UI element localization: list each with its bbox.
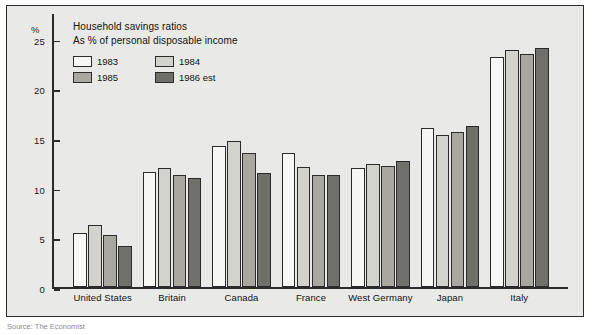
bar xyxy=(257,173,271,287)
y-axis-tick-mark xyxy=(54,140,60,142)
x-axis-category-label: Italy xyxy=(485,292,554,303)
x-axis-category-label: United States xyxy=(68,292,137,303)
x-axis-category-label: Canada xyxy=(207,292,276,303)
bar xyxy=(88,225,102,287)
x-axis-line xyxy=(52,287,568,289)
bar-group: France xyxy=(276,14,345,287)
x-axis-category-label: West Germany xyxy=(346,292,415,303)
y-axis-tick-label: 0 xyxy=(40,284,45,295)
y-axis-tick-mark xyxy=(54,190,60,192)
bar xyxy=(396,161,410,287)
y-axis-tick-mark xyxy=(54,90,60,92)
bar xyxy=(242,153,256,287)
y-axis-unit-label: % xyxy=(31,24,39,35)
x-axis-category-label: Britain xyxy=(137,292,206,303)
plot-area: 0510152025 United StatesBritainCanadaFra… xyxy=(52,14,568,289)
bar xyxy=(351,168,365,287)
bar xyxy=(212,146,226,287)
bar-group: Italy xyxy=(485,14,554,287)
bar xyxy=(312,175,326,287)
y-axis-tick-label: 25 xyxy=(34,35,45,46)
bar xyxy=(466,126,480,287)
bar-group: Britain xyxy=(137,14,206,287)
bar xyxy=(143,172,157,287)
bar xyxy=(158,168,172,287)
bar xyxy=(505,50,519,287)
bar xyxy=(490,57,504,287)
y-axis-tick-label: 15 xyxy=(34,135,45,146)
bar xyxy=(103,235,117,287)
bar xyxy=(535,48,549,287)
bar xyxy=(118,246,132,287)
bar xyxy=(282,153,296,287)
bar xyxy=(436,135,450,287)
bar xyxy=(227,141,241,287)
y-axis-tick-label: 5 xyxy=(40,234,45,245)
y-axis-line xyxy=(52,14,54,289)
bar xyxy=(327,175,341,287)
bar xyxy=(297,167,311,287)
y-axis-tick-label: 20 xyxy=(34,85,45,96)
bar-group: Japan xyxy=(415,14,484,287)
x-axis-category-label: France xyxy=(276,292,345,303)
chart-panel: % Household savings ratios As % of perso… xyxy=(6,5,584,317)
bar xyxy=(451,132,465,287)
bar xyxy=(421,128,435,287)
x-axis-category-label: Japan xyxy=(415,292,484,303)
bar-group: West Germany xyxy=(346,14,415,287)
y-axis-tick-mark xyxy=(54,289,60,291)
bar-group: United States xyxy=(68,14,137,287)
y-axis-tick-label: 10 xyxy=(34,184,45,195)
bar xyxy=(73,233,87,287)
bar xyxy=(520,54,534,287)
y-axis-tick-mark xyxy=(54,41,60,43)
y-axis-tick-mark xyxy=(54,239,60,241)
bar xyxy=(366,164,380,287)
bar xyxy=(173,175,187,287)
source-caption: Source: The Economist xyxy=(7,322,85,333)
bar xyxy=(188,178,202,287)
bar-group: Canada xyxy=(207,14,276,287)
chart-figure: % Household savings ratios As % of perso… xyxy=(0,0,593,335)
bar xyxy=(381,166,395,287)
